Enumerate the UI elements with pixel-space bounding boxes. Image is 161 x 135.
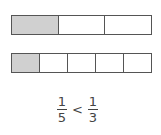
fraction-bar-thirds	[11, 15, 152, 35]
bar-cell	[105, 16, 151, 34]
bar-cell	[68, 54, 96, 72]
fraction-comparison: 1 5 < 1 3	[56, 95, 99, 124]
denominator: 5	[58, 111, 66, 124]
numerator: 1	[58, 95, 66, 108]
fraction-bar-fifths	[11, 53, 152, 73]
numerator: 1	[89, 95, 97, 108]
denominator: 3	[89, 111, 97, 124]
fraction-left: 1 5	[56, 95, 68, 124]
fraction-right: 1 3	[87, 95, 99, 124]
bar-cell	[59, 16, 106, 34]
bar-cell-shaded	[12, 16, 59, 34]
bar-cell	[96, 54, 124, 72]
bar-cell	[124, 54, 151, 72]
less-than-operator: <	[72, 102, 83, 117]
bar-cell-shaded	[12, 54, 40, 72]
bar-cell	[40, 54, 68, 72]
